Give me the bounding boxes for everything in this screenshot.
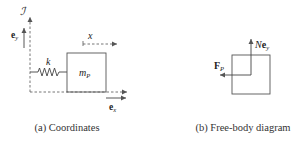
spring-force-label: FP — [214, 60, 224, 72]
panel-free-body-diagram: Ney FP (b) Free-body diagram — [195, 39, 290, 134]
caption-coordinates: (a) Coordinates — [34, 122, 99, 134]
panel-coordinates: ℐ ey k mP x ex (a) Coordinates — [11, 5, 127, 134]
x-coordinate-label: x — [87, 30, 93, 41]
frame-label: ℐ — [20, 5, 27, 17]
mass-label: mP — [79, 67, 90, 79]
ey-label: ey — [11, 30, 18, 41]
ex-label: ex — [109, 102, 116, 113]
spring-constant-label: k — [46, 56, 51, 67]
spring-icon — [30, 68, 67, 76]
normal-force-label: Ney — [254, 39, 269, 51]
figure-canvas: ℐ ey k mP x ex (a) Coordinates Ney FP (b… — [0, 0, 307, 141]
caption-free-body-diagram: (b) Free-body diagram — [195, 122, 290, 134]
